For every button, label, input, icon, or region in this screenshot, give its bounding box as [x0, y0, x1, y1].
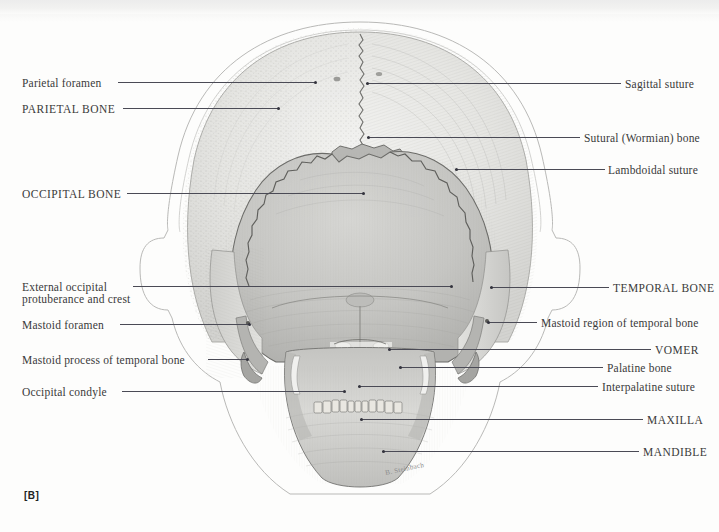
label-occipital-condyle: Occipital condyle: [22, 386, 107, 398]
label-interpalatine-suture: Interpalatine suture: [602, 381, 695, 393]
leader-mastoid-process: [208, 359, 248, 360]
anchor-sutural-wormian-bone: [367, 136, 370, 139]
leader-lambdoidal-suture: [455, 169, 605, 170]
anchor-mastoid-process: [246, 358, 249, 361]
skull-posterior-illustration: [0, 0, 719, 532]
label-parietal-bone: PARIETAL BONE: [22, 103, 115, 115]
label-vomer: VOMER: [655, 344, 699, 356]
label-external-occipital-protuberance-line2: protuberance and crest: [22, 293, 130, 305]
label-mastoid-process: Mastoid process of temporal bone: [22, 354, 185, 366]
label-sutural-wormian-bone: Sutural (Wormian) bone: [584, 132, 700, 144]
anchor-interpalatine-suture: [358, 385, 361, 388]
leader-parietal-foramen: [118, 82, 316, 83]
anchor-temporal-bone: [490, 286, 493, 289]
anchor-occipital-condyle: [343, 390, 346, 393]
label-temporal-bone: TEMPORAL BONE: [613, 282, 715, 294]
leader-occipital-condyle: [122, 391, 345, 392]
parietal-foramen-right: [376, 72, 382, 76]
label-occipital-bone: OCCIPITAL BONE: [22, 188, 121, 200]
figure-page: B. Steinbach Parietal foramenPARIETAL BO…: [0, 0, 719, 532]
label-sagittal-suture: Sagittal suture: [625, 78, 694, 90]
leader-mandible: [382, 451, 639, 452]
anchor-occipital-bone: [362, 192, 365, 195]
anchor-mastoid-foramen: [248, 323, 251, 326]
anchor-parietal-foramen: [314, 81, 317, 84]
label-mandible: MANDIBLE: [643, 446, 707, 458]
anchor-mandible: [382, 450, 385, 453]
anchor-vomer: [388, 348, 391, 351]
leader-sagittal-suture: [366, 83, 621, 84]
label-mastoid-foramen: Mastoid foramen: [22, 319, 104, 331]
leader-palatine-bone: [399, 367, 603, 368]
label-lambdoidal-suture: Lambdoidal suture: [608, 164, 698, 176]
anchor-external-occipital-protuberance: [450, 285, 453, 288]
external-occipital-protuberance: [346, 293, 374, 307]
leader-external-occipital-protuberance: [133, 286, 452, 287]
leader-vomer: [388, 349, 651, 350]
anchor-palatine-bone: [399, 366, 402, 369]
lower-teeth: [314, 400, 402, 413]
leader-mastoid-foramen: [120, 324, 250, 325]
anchor-parietal-bone: [277, 107, 280, 110]
leader-parietal-bone: [123, 108, 279, 109]
leader-temporal-bone: [490, 287, 609, 288]
label-palatine-bone: Palatine bone: [607, 362, 672, 374]
leader-mastoid-region: [487, 322, 537, 323]
label-maxilla: MAXILLA: [647, 414, 703, 426]
leader-occipital-bone: [127, 193, 364, 194]
leader-maxilla: [360, 419, 643, 420]
anchor-lambdoidal-suture: [455, 168, 458, 171]
figure-identifier: [B]: [24, 490, 39, 501]
leader-interpalatine-suture: [358, 386, 598, 387]
anchor-mastoid-region: [487, 321, 490, 324]
label-parietal-foramen: Parietal foramen: [22, 77, 102, 89]
leader-sutural-wormian-bone: [367, 137, 580, 138]
anchor-maxilla: [360, 418, 363, 421]
anchor-sagittal-suture: [366, 82, 369, 85]
label-mastoid-region: Mastoid region of temporal bone: [541, 317, 699, 329]
label-external-occipital-protuberance: External occipital: [22, 281, 107, 293]
parietal-foramen-left: [334, 77, 341, 82]
